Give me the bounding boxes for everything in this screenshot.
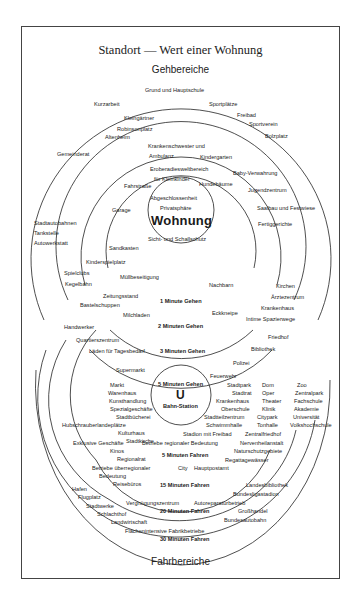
label: Dom — [262, 382, 274, 388]
label: Krankenhaus — [261, 305, 294, 311]
label: Reisebüros — [113, 481, 141, 487]
label: Ambulanz — [149, 153, 174, 159]
label: Autoreparaturbetrieb — [194, 500, 245, 506]
label: für Kleinkinder — [154, 176, 190, 182]
label: Kurzarbeit — [94, 101, 120, 107]
label: Grund und Hauptschule — [145, 87, 204, 93]
label: Kirchen — [276, 283, 295, 289]
label: Stadtpark — [227, 382, 251, 388]
label: Supermarkt — [116, 367, 145, 373]
label: Kindergarten — [200, 154, 232, 160]
label: Universität — [293, 414, 319, 420]
label: Betriebe überregionaler — [92, 465, 150, 471]
label: Landwirtschaft — [111, 519, 147, 525]
label: Läden für Tagesbedarf — [89, 348, 145, 354]
label: Regionalrat — [117, 456, 146, 462]
label: Saalbau und Festwiese — [257, 205, 315, 211]
label: Nachbarn — [209, 282, 233, 288]
station-label: Bahn-Station — [163, 403, 198, 409]
drive-section-title: Fahrbereiche — [21, 556, 340, 567]
label: Kinos — [110, 448, 124, 454]
center-label: Wohnung — [151, 213, 212, 228]
label: Bedeutung — [99, 473, 126, 479]
label: Flächenintensive Fabrikbetriebe — [125, 528, 204, 534]
label: Hauptpostamt — [194, 465, 229, 471]
label: Intime Spazierwege — [246, 316, 295, 322]
label: Tankstelle — [34, 230, 59, 236]
label: Gemeinderat — [57, 151, 89, 157]
ring-label: 5 Minuten Fahren — [162, 452, 208, 458]
label: Eroberadiesweltbereich — [150, 166, 208, 172]
label: Kinderspielplatz — [86, 259, 126, 265]
label: Abgeschlossenheit — [150, 195, 197, 201]
label: Bibliothek — [251, 346, 275, 352]
label: Naturschutzgebiete — [234, 448, 282, 454]
label: Stadtbücherei — [116, 414, 151, 420]
label: Kegelbahn — [65, 281, 92, 287]
label: Fachschule — [294, 398, 323, 404]
label: Zeitungsstand — [103, 293, 138, 299]
label: Feuerwehr — [210, 373, 237, 379]
label: Krankenschwester und — [148, 143, 205, 149]
label: Bundesligastadion — [233, 491, 279, 497]
label: City — [178, 465, 188, 471]
ring-label: 3 Minuten Gehen — [160, 348, 205, 354]
label: Oberschule — [221, 406, 250, 412]
label: Altenheim — [105, 134, 130, 140]
label: Robinsonplatz — [117, 126, 152, 132]
label: Fertiggerichte — [258, 221, 292, 227]
label: Stadtteilzentrum — [204, 414, 244, 420]
label: Bundesautobahn — [224, 517, 266, 523]
label: Bastelschuppen — [80, 302, 120, 308]
label: Landesbibliothek — [246, 482, 288, 488]
label: Eckkneipe — [212, 310, 238, 316]
label: Kulturhaus — [118, 430, 145, 436]
label: Volkshochschule — [290, 422, 332, 428]
label: Polizei — [233, 360, 249, 366]
label: Autowerkstatt — [34, 240, 68, 246]
label: Bolzplatz — [265, 133, 288, 139]
label: Müllbeseitigung — [120, 274, 159, 280]
label: Fahrstraße — [124, 183, 151, 189]
ring-label: 15 Minuten Fahren — [160, 482, 209, 488]
label: Jugendzentrum — [248, 187, 287, 193]
label: Tonhalle — [257, 422, 278, 428]
u-bahn-icon: U — [176, 388, 185, 402]
ring-label: 30 Minuten Fahren — [160, 536, 209, 542]
label: Freibad — [237, 112, 256, 118]
ring-label: 2 Minuten Gehen — [158, 323, 203, 329]
label: Theater — [262, 398, 281, 404]
label: Schwimmhalle — [206, 422, 242, 428]
label: Regattagewässer — [225, 457, 269, 463]
ring-label: 1 Minute Gehen — [160, 298, 202, 304]
label: Schlachthof — [97, 511, 126, 517]
label: Garage — [112, 207, 131, 213]
label: Kunsthandlung — [109, 398, 146, 404]
label: Krankenhaus — [216, 398, 249, 404]
diagram-title: Standort — Wert einer Wohnung — [21, 43, 340, 58]
label: Stadtrat — [232, 390, 252, 396]
label: Stadtautobahnen — [34, 220, 77, 226]
label: Spezialgeschäfte — [110, 406, 153, 412]
label: Friedhof — [268, 334, 289, 340]
label: Zoo — [297, 382, 307, 388]
label: Markt — [110, 382, 124, 388]
label: Akademie — [294, 406, 319, 412]
label: Stadtwerke — [86, 503, 114, 509]
label: Sandkasten — [109, 245, 139, 251]
label: Zentralfriedhof — [245, 431, 281, 437]
label: Spielclubs — [64, 270, 90, 276]
label: Handwerker — [64, 324, 94, 330]
label: Sicht- und Schallschutz — [148, 236, 206, 242]
station-ring-label: 5 Minuten Gehen — [158, 381, 203, 387]
label: Flugplatz — [78, 494, 101, 500]
walk-section-title: Gehbereiche — [21, 64, 340, 75]
label: Zentralpark — [295, 390, 323, 396]
label: Vergnügungszentrum — [126, 500, 179, 506]
label: Nervenheilanstalt — [240, 440, 283, 446]
label: Quartierszentrum — [76, 337, 119, 343]
label: Stadion mit Freibad — [183, 431, 232, 437]
label: Betriebe regionaler Bedeutung — [142, 440, 218, 446]
label: Hundebäume — [199, 181, 233, 187]
label: Privatsphäre — [160, 205, 191, 211]
